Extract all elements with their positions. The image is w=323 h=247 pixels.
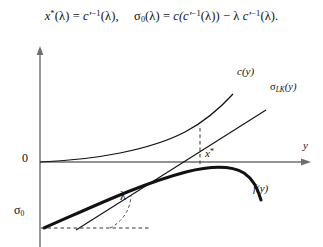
sigma-zero-label-subscript: 0: [20, 209, 24, 218]
origin-label: 0: [22, 152, 28, 164]
f-curve-label: f(y): [253, 183, 268, 194]
sigma-lk-argument: (y): [285, 81, 297, 92]
x-star-argument: (λ): [55, 9, 70, 23]
plot-canvas: [0, 32, 323, 247]
minus-sign: −: [223, 9, 230, 23]
equals-sign-2: =: [163, 9, 170, 23]
equation-part-2: σ0(λ) = c(c′−1(λ)) − λ c′−1(λ).: [134, 9, 278, 23]
minus-one-exponent-2: −1: [191, 8, 200, 18]
y-axis-arrowhead: [37, 46, 44, 55]
sigma-lk-subscript: LK: [276, 85, 285, 94]
lambda-argument-3: (λ).: [260, 9, 278, 23]
equation-part-1: x*(λ) = c′−1(λ),: [45, 9, 119, 23]
x-star-label-mark: *: [210, 147, 214, 156]
lambda-symbol: λ: [233, 9, 239, 23]
equation-line: x*(λ) = c′−1(λ), σ0(λ) = c(c′−1(λ)) − λ …: [0, 8, 323, 24]
sigma-zero-symbol: σ: [134, 9, 141, 23]
x-axis-arrowhead: [301, 158, 311, 165]
c-outer-function: c(: [173, 9, 183, 23]
f-curve: [44, 167, 261, 228]
minus-one-exponent-3: −1: [251, 8, 260, 18]
sigma-zero-label: σ0: [14, 204, 24, 218]
lambda-argument-1: (λ),: [101, 9, 119, 23]
x-star-label: x*: [205, 148, 214, 159]
lambda-angle-label: λ: [120, 190, 126, 202]
equals-sign-1: =: [73, 9, 80, 23]
sigma-zero-argument: (λ): [145, 9, 160, 23]
sigma-lk-curve-label: σLK(y): [270, 82, 297, 94]
y-axis-label: y: [303, 140, 308, 151]
math-figure: x*(λ) = c′−1(λ), σ0(λ) = c(c′−1(λ)) − λ …: [0, 0, 323, 247]
c-curve-label: c(y): [237, 66, 254, 77]
lambda-inner-argument: (λ)): [201, 9, 220, 23]
